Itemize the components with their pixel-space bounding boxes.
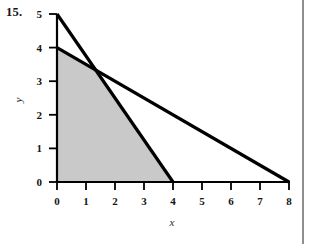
y-tick-label: 2 — [37, 109, 43, 121]
x-tick-label: 8 — [286, 195, 292, 207]
y-tick-label: 4 — [37, 42, 43, 54]
y-tick-label: 1 — [37, 142, 43, 154]
data-layer — [57, 48, 173, 182]
x-tick-label: 2 — [112, 195, 118, 207]
x-tick-label: 0 — [54, 195, 60, 207]
x-tick-label: 3 — [141, 195, 147, 207]
x-tick-label: 6 — [228, 195, 234, 207]
figure-container: 15. — [0, 0, 311, 244]
x-axis-title: x — [169, 216, 175, 228]
y-axis-title: y — [12, 97, 24, 103]
x-tick-label: 4 — [170, 195, 176, 207]
shaded-feasible-region — [57, 48, 173, 182]
y-tick-label: 3 — [37, 75, 43, 87]
y-tick-marks — [49, 14, 57, 182]
x-tick-label: 5 — [199, 195, 205, 207]
y-tick-labels: 0 1 2 3 4 5 — [37, 8, 43, 188]
x-tick-label: 1 — [83, 195, 89, 207]
x-tick-label: 7 — [257, 195, 263, 207]
y-tick-label: 0 — [37, 176, 43, 188]
x-tick-labels: 0 1 2 3 4 5 6 7 8 — [54, 195, 292, 207]
page-edge-rule — [302, 0, 304, 244]
plot-area: 0 1 2 3 4 5 6 7 8 0 1 2 3 4 5 x y — [0, 0, 311, 244]
x-tick-marks — [57, 182, 289, 190]
y-tick-label: 5 — [37, 8, 43, 20]
